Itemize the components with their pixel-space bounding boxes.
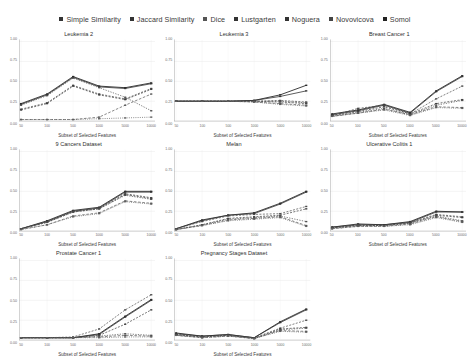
subplot: 9 Cancers Dataset0.000.250.500.751.00501… xyxy=(2,140,155,250)
data-point-marker xyxy=(124,201,126,202)
x-axis-tick-label: 500 xyxy=(381,233,387,237)
data-point-marker xyxy=(305,332,307,333)
legend-item[interactable]: Dice xyxy=(203,15,225,24)
plot-wrap: 0.000.250.500.751.00 xyxy=(157,149,310,234)
chart-legend: Simple SimilarityJaccard SimilarityDiceL… xyxy=(0,0,470,30)
data-point-marker xyxy=(72,85,74,86)
x-axis-tick-label: 1000 xyxy=(251,233,259,237)
x-axis-tick-label: 10000 xyxy=(457,124,466,128)
data-point-marker xyxy=(124,310,126,311)
plot-area xyxy=(174,258,310,343)
x-axis-tick-label: 5000 xyxy=(121,233,129,237)
data-point-marker xyxy=(124,194,126,195)
subplot-title: Melan xyxy=(157,140,310,149)
x-axis: 501005001000500010000 xyxy=(174,233,310,241)
data-point-marker xyxy=(279,101,281,102)
x-axis-tick-label: 10000 xyxy=(457,233,466,237)
plot-wrap: 0.000.250.500.751.00 xyxy=(2,39,155,124)
x-axis-tick-label: 10000 xyxy=(147,343,156,347)
data-point-marker xyxy=(150,116,152,117)
data-point-marker xyxy=(409,115,411,116)
data-point-marker xyxy=(357,112,359,113)
data-point-marker xyxy=(150,198,152,199)
y-axis-tick-label: 0.25 xyxy=(321,210,328,214)
legend-item[interactable]: Lustgarten xyxy=(234,15,276,24)
y-axis: 0.000.250.500.751.00 xyxy=(2,258,19,343)
data-point-marker xyxy=(253,218,255,219)
data-point-marker xyxy=(227,215,229,216)
x-axis-tick-label: 10000 xyxy=(302,233,311,237)
data-point-marker xyxy=(357,225,359,226)
series-line xyxy=(176,217,306,229)
data-point-marker xyxy=(461,108,463,109)
x-axis: 501005001000500010000 xyxy=(174,343,310,351)
data-point-marker xyxy=(305,85,307,86)
data-point-marker xyxy=(305,191,307,192)
legend-item[interactable]: Noguera xyxy=(285,15,320,24)
y-axis-tick-label: 0.50 xyxy=(10,189,17,193)
data-point-marker xyxy=(435,105,437,106)
data-point-marker xyxy=(227,101,229,102)
legend-item[interactable]: Somol xyxy=(383,15,411,24)
x-axis-tick-label: 50 xyxy=(19,343,23,347)
data-point-marker xyxy=(305,105,307,106)
data-point-marker xyxy=(124,337,126,338)
x-axis-tick-label: 100 xyxy=(355,233,361,237)
data-point-marker xyxy=(279,213,281,214)
legend-item[interactable]: Simple Similarity xyxy=(59,15,120,24)
data-point-marker xyxy=(279,96,281,97)
subplot-title: Leukemia 3 xyxy=(157,30,310,39)
y-axis-tick-label: 0.50 xyxy=(165,299,172,303)
x-axis-tick-label: 500 xyxy=(70,343,76,347)
data-point-marker xyxy=(331,116,333,117)
y-axis: 0.000.250.500.751.00 xyxy=(157,39,174,124)
legend-marker-icon xyxy=(130,17,134,21)
data-point-marker xyxy=(383,109,385,110)
data-point-marker xyxy=(98,329,100,330)
data-point-marker xyxy=(150,300,152,301)
x-axis-tick-label: 500 xyxy=(381,124,387,128)
data-point-marker xyxy=(150,83,152,84)
x-axis-label: Subset of Selected Features xyxy=(330,132,466,140)
y-axis-tick-label: 0.75 xyxy=(165,58,172,62)
data-point-marker xyxy=(20,109,22,110)
plot-canvas xyxy=(174,39,310,124)
plot-area xyxy=(330,39,466,124)
y-axis-tick-label: 0.00 xyxy=(165,231,172,235)
data-point-marker xyxy=(279,94,281,95)
y-axis: 0.000.250.500.751.00 xyxy=(2,39,19,124)
data-point-marker xyxy=(124,335,126,336)
data-point-marker xyxy=(46,224,48,225)
x-axis-tick-label: 10000 xyxy=(147,233,156,237)
data-point-marker xyxy=(435,217,437,218)
legend-item[interactable]: Novovicova xyxy=(329,15,374,24)
y-axis-tick-label: 0.00 xyxy=(10,122,17,126)
data-point-marker xyxy=(305,310,307,311)
y-axis-tick-label: 0.25 xyxy=(165,320,172,324)
y-axis-tick-label: 0.00 xyxy=(165,341,172,345)
series-line xyxy=(21,78,151,111)
data-point-marker xyxy=(279,217,281,218)
y-axis-tick-label: 0.25 xyxy=(10,100,17,104)
data-point-marker xyxy=(46,119,48,120)
series-line xyxy=(21,310,151,338)
plot-wrap: 0.000.250.500.751.00 xyxy=(2,258,155,343)
subplot: Melan0.000.250.500.751.00501005001000500… xyxy=(157,140,310,250)
data-point-marker xyxy=(201,225,203,226)
legend-item-label: Somol xyxy=(390,15,411,24)
y-axis-tick-label: 1.00 xyxy=(165,37,172,41)
data-point-marker xyxy=(98,94,100,95)
x-axis-tick-label: 5000 xyxy=(277,233,285,237)
data-point-marker xyxy=(124,97,126,98)
x-axis-tick-label: 100 xyxy=(44,343,50,347)
data-point-marker xyxy=(46,103,48,104)
data-point-marker xyxy=(279,331,281,332)
x-axis-label: Subset of Selected Features xyxy=(330,241,466,249)
data-point-marker xyxy=(305,221,307,222)
data-point-marker xyxy=(305,205,307,206)
legend-item[interactable]: Jaccard Similarity xyxy=(130,15,195,24)
data-point-marker xyxy=(20,105,22,106)
data-point-marker xyxy=(98,118,100,119)
data-point-marker xyxy=(72,119,74,120)
data-point-marker xyxy=(150,93,152,94)
